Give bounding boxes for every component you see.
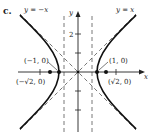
x-axis-label: x — [144, 73, 148, 81]
hyperbola-diagram: c. y = −x y = x y x 2 (−1, 0) (1, 0) (−√… — [0, 0, 150, 132]
right-focus-label: (√2, 0) — [108, 78, 132, 86]
asymptote-left-label: y = −x — [23, 6, 48, 14]
right-vertex-leader — [99, 62, 108, 70]
left-focus-label: (−√2, 0) — [16, 78, 45, 86]
left-vertex-point — [57, 70, 61, 74]
right-vertex-label: (1, 0) — [109, 57, 128, 65]
y-tick-label-2: 2 — [69, 31, 73, 39]
right-focus-point — [104, 70, 108, 74]
asymptote-right-label: y = x — [115, 6, 134, 14]
y-axis-arrow-icon — [76, 11, 81, 17]
left-focus-point — [48, 70, 52, 74]
left-vertex-label: (−1, 0) — [24, 57, 49, 65]
left-vertex-leader — [48, 62, 57, 70]
y-axis-label: y — [68, 9, 74, 17]
origin-point — [77, 71, 80, 74]
panel-label: c. — [3, 6, 12, 16]
right-vertex-point — [95, 70, 99, 74]
